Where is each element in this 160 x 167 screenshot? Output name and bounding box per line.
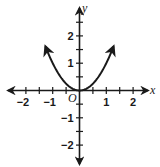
x-tick-label: 1 (103, 96, 109, 108)
y-tick-label: 1 (67, 57, 73, 69)
y-axis-label: y (81, 1, 88, 15)
y-tick-label: −1 (61, 112, 74, 124)
x-tick-label: −2 (17, 96, 30, 108)
x-axis-label: x (149, 83, 156, 97)
x-tick-label: 2 (130, 96, 136, 108)
parabola-graph: −2−11221−1−2 x y O (0, 0, 160, 167)
x-tick-label: −1 (43, 96, 56, 108)
y-tick-label: 2 (67, 30, 73, 42)
axes (8, 8, 148, 164)
y-tick-label: −2 (61, 139, 74, 151)
origin-label: O (68, 91, 77, 105)
